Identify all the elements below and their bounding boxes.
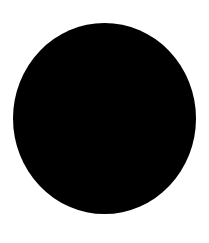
black-circle-shape	[13, 23, 196, 214]
image-canvas	[0, 0, 209, 243]
shape-layer	[0, 0, 209, 243]
